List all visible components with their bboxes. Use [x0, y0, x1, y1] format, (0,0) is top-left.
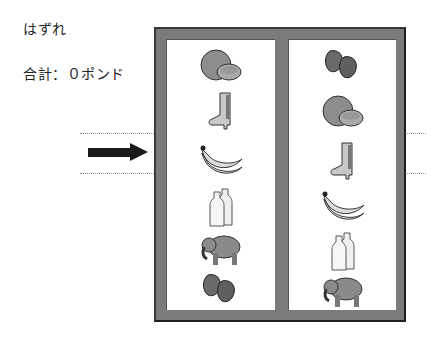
- milk-bottles-icon: [289, 230, 396, 272]
- milk-bottles-icon: [167, 186, 275, 228]
- result-label: はずれ: [23, 18, 67, 38]
- banana-icon: [289, 186, 396, 228]
- elephant-icon: [289, 270, 396, 312]
- elephant-icon: [167, 228, 275, 270]
- orange-icon: [167, 44, 275, 86]
- strawberries-icon: [167, 266, 275, 308]
- slot-machine-frame: [154, 27, 406, 322]
- reel-left[interactable]: [166, 39, 275, 310]
- total-label: 合計：０ポンド: [23, 63, 125, 83]
- boot-icon: [289, 140, 396, 182]
- boot-icon: [167, 90, 275, 132]
- strawberries-icon: [289, 44, 396, 86]
- orange-icon: [289, 90, 396, 132]
- right-arrow-icon: [88, 143, 148, 161]
- reel-right[interactable]: [288, 39, 396, 310]
- banana-icon: [167, 140, 275, 182]
